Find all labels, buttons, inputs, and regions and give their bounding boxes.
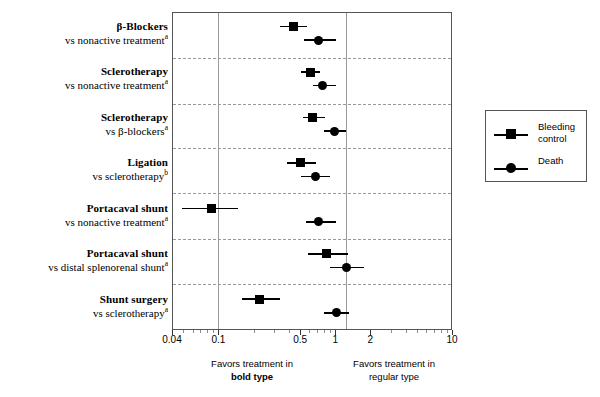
row-comparator-label: vs nonactive treatmenta <box>0 33 168 47</box>
x-axis-minor-tick <box>254 330 255 333</box>
row-label-3: Ligationvs sclerotherapyb <box>0 156 168 183</box>
x-axis-minor-tick <box>200 330 201 333</box>
row-treatment-label: Sclerotherapy <box>0 111 168 124</box>
x-axis-tick-label: 10 <box>446 334 457 345</box>
row-separator <box>173 239 451 240</box>
x-axis-minor-tick <box>317 330 318 333</box>
x-axis-minor-tick <box>406 330 407 333</box>
footer-right-line1: Favors treatment in <box>353 358 435 371</box>
x-axis-minor-tick <box>309 330 310 333</box>
row-label-4: Portacaval shuntvs nonactive treatmenta <box>0 202 168 229</box>
legend-label-line1: Death <box>538 155 563 167</box>
footer-right-line2: regular type <box>353 371 435 384</box>
x-axis-minor-tick <box>274 330 275 333</box>
row-footnote-marker: a <box>165 305 168 314</box>
row-label-2: Sclerotherapyvs β-blockersa <box>0 111 168 138</box>
x-axis-minor-tick <box>441 330 442 333</box>
x-axis-minor-tick <box>391 330 392 333</box>
footer-right: Favors treatment in regular type <box>353 358 435 384</box>
x-axis-minor-tick <box>417 330 418 333</box>
row-footnote-marker: b <box>164 168 168 177</box>
point-marker-circle <box>330 127 339 136</box>
row-footnote-marker: a <box>165 214 168 223</box>
row-comparator-label: vs β-blockersa <box>0 124 168 138</box>
row-comparator-label: vs nonactive treatmenta <box>0 215 168 229</box>
point-marker-circle <box>314 36 323 45</box>
row-label-6: Shunt surgeryvs sclerotherapya <box>0 293 168 320</box>
point-marker-square <box>322 249 331 258</box>
point-marker-circle <box>311 172 320 181</box>
point-marker-square <box>255 295 264 304</box>
row-treatment-label: Portacaval shunt <box>0 247 168 260</box>
forest-plot-figure: β-Blockersvs nonactive treatmentaSclerot… <box>0 0 600 397</box>
x-axis-tick-label: 2 <box>368 334 374 345</box>
row-separator <box>173 193 451 194</box>
x-axis-tick-label: 0.04 <box>162 334 181 345</box>
row-separator <box>173 58 451 59</box>
row-separator <box>173 148 451 149</box>
row-footnote-marker: a <box>165 32 168 41</box>
point-marker-square <box>308 113 317 122</box>
plot-area <box>172 12 452 330</box>
row-comparator-label: vs nonactive treatmenta <box>0 78 168 92</box>
row-label-5: Portacaval shuntvs distal splenorenal sh… <box>0 247 168 274</box>
x-axis-minor-tick <box>447 330 448 333</box>
legend-label-line1: Bleeding <box>538 121 575 133</box>
row-footnote-marker: a <box>165 123 168 132</box>
row-treatment-label: Ligation <box>0 156 168 169</box>
x-axis-tick-label: 0.5 <box>293 334 307 345</box>
x-axis-tick-label: 1 <box>332 334 338 345</box>
row-treatment-label: Portacaval shunt <box>0 202 168 215</box>
point-marker-square <box>289 22 298 31</box>
x-axis-minor-tick <box>193 330 194 333</box>
x-axis-minor-tick <box>213 330 214 333</box>
footer-left: Favors treatment in bold type <box>211 358 293 384</box>
legend-item-death: Death <box>494 155 586 183</box>
x-axis-tick-label: 0.1 <box>212 334 226 345</box>
x-axis-minor-tick <box>207 330 208 333</box>
row-label-0: β-Blockersvs nonactive treatmenta <box>0 20 168 47</box>
legend-marker-circle <box>506 163 516 173</box>
legend-item-bleeding-control: Bleedingcontrol <box>494 121 586 149</box>
reference-line-1 <box>346 13 347 329</box>
row-comparator-label: vs sclerotherapyb <box>0 169 168 183</box>
x-axis-minor-tick <box>426 330 427 333</box>
x-axis-minor-tick <box>289 330 290 333</box>
row-label-1: Sclerotherapyvs nonactive treatmenta <box>0 65 168 92</box>
row-footnote-marker: a <box>165 259 168 268</box>
reference-line-0.1 <box>218 13 219 329</box>
point-marker-square <box>296 158 305 167</box>
point-marker-circle <box>332 308 341 317</box>
row-treatment-label: Shunt surgery <box>0 293 168 306</box>
point-marker-circle <box>342 263 351 272</box>
legend-marker-square <box>506 129 516 139</box>
x-axis-minor-tick <box>434 330 435 333</box>
point-marker-square <box>207 204 216 213</box>
row-footnote-marker: a <box>165 77 168 86</box>
footer-left-line1: Favors treatment in <box>211 358 293 371</box>
legend-label: Death <box>538 155 563 167</box>
legend-label: Bleedingcontrol <box>538 121 575 145</box>
row-comparator-label: vs sclerotherapya <box>0 306 168 320</box>
point-marker-circle <box>318 81 327 90</box>
row-treatment-label: β-Blockers <box>0 20 168 33</box>
legend-label-line2: control <box>538 133 575 145</box>
row-separator <box>173 284 451 285</box>
x-axis-minor-tick <box>324 330 325 333</box>
point-marker-square <box>306 68 315 77</box>
x-axis-minor-tick <box>183 330 184 333</box>
row-label-column: β-Blockersvs nonactive treatmentaSclerot… <box>0 12 168 330</box>
point-marker-circle <box>314 217 323 226</box>
legend-box: BleedingcontrolDeath <box>485 110 587 182</box>
row-comparator-label: vs distal splenorenal shunta <box>0 260 168 274</box>
x-axis-minor-tick <box>330 330 331 333</box>
footer-left-line2: bold type <box>211 371 293 384</box>
row-separator <box>173 104 451 105</box>
row-treatment-label: Sclerotherapy <box>0 65 168 78</box>
